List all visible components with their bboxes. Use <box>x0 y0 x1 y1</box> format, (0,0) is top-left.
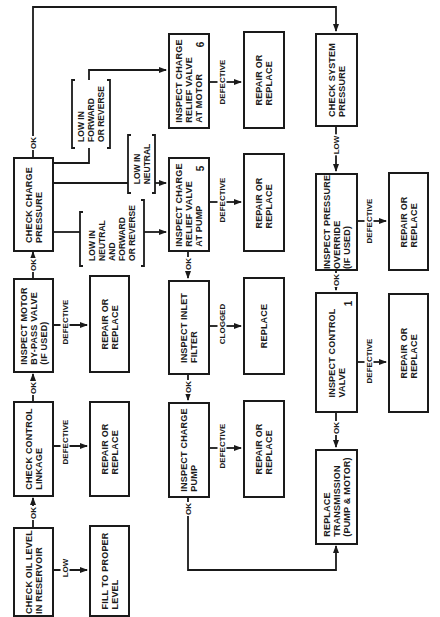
condition-low-neutral: LOW IN NEUTRAL <box>132 144 152 185</box>
repair-control-valve-box: REPAIR OR REPLACE <box>388 293 429 413</box>
condition-low-fwd-rev: LOW IN FORWARD OR REVERSE <box>76 86 106 142</box>
check-control-linkage-box: CHECK CONTROL LINKAGE <box>13 401 54 497</box>
edge-label-defective: DEFECTIVE <box>218 177 227 224</box>
repair-bypass-box: REPAIR OR REPLACE <box>89 275 130 373</box>
repair-override-label: REPAIR OR REPLACE <box>399 196 419 247</box>
repair-bypass-label: REPAIR OR REPLACE <box>100 298 120 349</box>
inspect-pressure-override-label: INSPECT PRESSURE OVERRIDE (IF USED) <box>322 175 352 269</box>
edge-label-defective: DEFECTIVE <box>365 338 374 385</box>
condition-low-neutral-and-fwd-rev: LOW IN NEUTRAL AND FORWARD OR REVERSE <box>87 205 137 261</box>
edge-label-ok: OK <box>29 381 38 395</box>
edge-label-defective: DEFECTIVE <box>218 59 227 106</box>
fill-to-proper-level-box: FILL TO PROPER LEVEL <box>89 525 130 617</box>
replace-transmission-label: REPLACE TRANSMISSION (PUMP & MOTOR) <box>322 457 352 536</box>
inspect-relief-pump-label: INSPECT CHARGE RELIEF VALVE AT PUMP <box>174 163 204 246</box>
edge-label-ok: OK <box>184 380 193 394</box>
inspect-control-valve-box: INSPECT CONTROL VALVE 1 <box>315 292 358 413</box>
inspect-inlet-filter-box: INSPECT INLET FILTER <box>168 280 210 375</box>
repair-linkage-label: REPAIR OR REPLACE <box>100 423 120 474</box>
replace-filter-box: REPLACE <box>243 277 285 375</box>
edge-label-defective: DEFECTIVE <box>61 299 70 346</box>
inspect-charge-pump-box: INSPECT CHARGE PUMP <box>168 402 210 498</box>
edge-label-defective: DEFECTIVE <box>61 419 70 466</box>
repair-charge-pump-box: REPAIR OR REPLACE <box>243 400 285 498</box>
edge-label-ok: OK <box>184 257 193 271</box>
edge-label-clogged: CLOGGED <box>218 303 227 345</box>
repair-relief-motor-box: REPAIR OR REPLACE <box>243 31 285 129</box>
replace-filter-label: REPLACE <box>259 304 269 348</box>
check-control-linkage-label: CHECK CONTROL LINKAGE <box>24 408 44 490</box>
edge-label-low: LOW <box>332 135 341 156</box>
step-number: 1 <box>344 301 355 307</box>
inspect-charge-pump-label: INSPECT CHARGE PUMP <box>179 408 199 491</box>
inspect-motor-bypass-label: INSPECT MOTOR BY-PASS VALVE (IF USED) <box>19 287 49 364</box>
inspect-motor-bypass-box: INSPECT MOTOR BY-PASS VALVE (IF USED) <box>13 278 54 373</box>
inspect-pressure-override-box: INSPECT PRESSURE OVERRIDE (IF USED) <box>315 173 358 271</box>
inspect-relief-motor-box: INSPECT CHARGE RELIEF VALVE AT MOTOR 6 <box>168 33 210 129</box>
replace-transmission-box: REPLACE TRANSMISSION (PUMP & MOTOR) <box>315 449 358 545</box>
repair-relief-pump-label: REPAIR OR REPLACE <box>254 177 274 228</box>
edge-label-ok: OK <box>29 136 38 150</box>
check-oil-level-label: CHECK OIL LEVEL IN RESERVOIR <box>24 530 44 614</box>
check-system-pressure-label: CHECK SYSTEM PRESSURE <box>327 43 347 117</box>
check-charge-pressure-label: CHECK CHARGE PRESSURE <box>24 167 44 243</box>
edge-label-ok: OK <box>332 273 341 287</box>
check-system-pressure-box: CHECK SYSTEM PRESSURE <box>315 33 358 127</box>
repair-relief-pump-box: REPAIR OR REPLACE <box>243 153 285 252</box>
check-charge-pressure-box: CHECK CHARGE PRESSURE <box>13 157 54 252</box>
inspect-relief-pump-box: INSPECT CHARGE RELIEF VALVE AT PUMP 5 <box>168 157 210 252</box>
inspect-inlet-filter-label: INSPECT INLET FILTER <box>179 292 199 362</box>
edge-label-defective: DEFECTIVE <box>365 198 374 245</box>
edge-label-ok: OK <box>29 258 38 272</box>
edge-label-ok: OK <box>184 502 193 516</box>
repair-relief-motor-label: REPAIR OR REPLACE <box>254 54 274 105</box>
edge-label-low: LOW <box>61 558 70 579</box>
step-number: 5 <box>196 166 207 172</box>
repair-linkage-box: REPAIR OR REPLACE <box>89 401 130 497</box>
fill-to-proper-level-label: FILL TO PROPER LEVEL <box>100 533 120 610</box>
step-number: 6 <box>196 42 207 48</box>
repair-charge-pump-label: REPAIR OR REPLACE <box>254 423 274 474</box>
edge-label-defective: DEFECTIVE <box>218 423 227 470</box>
inspect-relief-motor-label: INSPECT CHARGE RELIEF VALVE AT MOTOR <box>174 39 204 122</box>
check-oil-level-box: CHECK OIL LEVEL IN RESERVOIR <box>13 527 54 617</box>
repair-override-box: REPAIR OR REPLACE <box>388 172 429 271</box>
edge-label-ok: OK <box>29 506 38 520</box>
inspect-control-valve-label: INSPECT CONTROL VALVE <box>327 308 347 397</box>
edge-label-ok: OK <box>332 421 341 435</box>
repair-control-valve-label: REPAIR OR REPLACE <box>399 327 419 378</box>
